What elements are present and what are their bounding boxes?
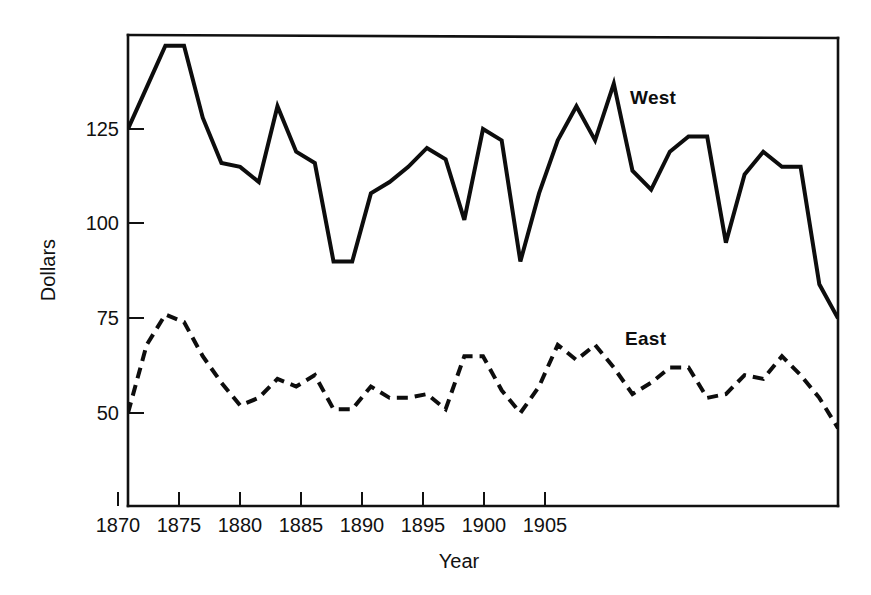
y-tick-label-125: 125 [86,118,119,140]
x-axis-title: Year [439,550,480,572]
x-tick-label-1895: 1895 [401,514,446,536]
x-tick-label-1885: 1885 [279,514,324,536]
y-tick-label-100: 100 [86,212,119,234]
y-tick-label-75: 75 [97,307,119,329]
x-tick-label-1870: 1870 [96,514,141,536]
x-tick-label-1890: 1890 [340,514,385,536]
x-tick-label-1880: 1880 [218,514,263,536]
x-tick-label-1900: 1900 [462,514,507,536]
line-chart-svg: 125 100 75 50 1870 1875 1880 1885 1890 1… [0,0,871,595]
x-tick-label-1875: 1875 [157,514,202,536]
x-tick-label-1905: 1905 [523,514,568,536]
y-tick-label-50: 50 [97,402,119,424]
chart-figure: 125 100 75 50 1870 1875 1880 1885 1890 1… [0,0,871,595]
y-axis-title: Dollars [37,239,59,301]
series-label-east: East [625,328,667,349]
series-label-west: West [630,87,677,108]
